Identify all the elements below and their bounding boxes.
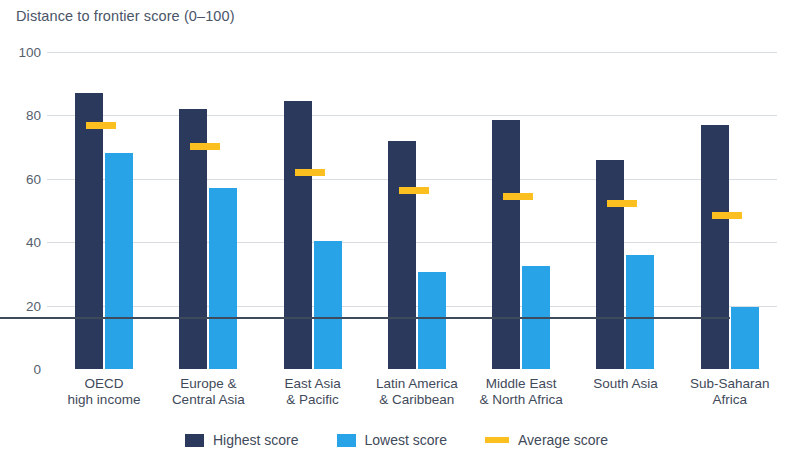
average-score-marker [503, 193, 533, 200]
x-axis-line [0, 317, 730, 319]
bar-highest-score [284, 101, 312, 369]
chart-title: Distance to frontier score (0–100) [16, 8, 235, 24]
bar-lowest-score [418, 272, 446, 369]
bar-highest-score [388, 141, 416, 369]
bar-lowest-score [626, 255, 654, 369]
legend-label: Lowest score [365, 432, 447, 448]
y-axis-tick-label: 80 [1, 108, 41, 123]
bar-group [75, 52, 133, 369]
bar-highest-score [492, 120, 520, 369]
x-axis-category-label: Europe &Central Asia [148, 376, 268, 408]
bar-highest-score [701, 125, 729, 369]
legend-label: Average score [518, 432, 608, 448]
y-axis-tick-label: 0 [1, 362, 41, 377]
x-axis-category-label-line: East Asia [253, 376, 373, 392]
average-score-marker [712, 212, 742, 219]
bar-lowest-score [209, 188, 237, 369]
x-axis-category-label: Sub-SaharanAfrica [670, 376, 790, 408]
bar-group [596, 52, 654, 369]
bar-lowest-score [731, 307, 759, 369]
legend-item[interactable]: Average score [485, 432, 608, 448]
x-axis-category-label: Middle East& North Africa [461, 376, 581, 408]
y-axis-tick-label: 40 [1, 235, 41, 250]
distance-to-frontier-chart: Distance to frontier score (0–100) 02040… [0, 0, 793, 461]
x-axis-category-label-line: & Caribbean [357, 392, 477, 408]
legend-color-swatch [337, 434, 356, 447]
plot-area [47, 52, 777, 369]
x-axis-category-label-line: OECD [44, 376, 164, 392]
x-axis-category-label-line: Africa [670, 392, 790, 408]
legend-label: Highest score [213, 432, 299, 448]
x-axis-category-label: South Asia [565, 376, 685, 392]
bar-group [701, 52, 759, 369]
legend-item[interactable]: Lowest score [337, 432, 447, 448]
average-score-marker [399, 187, 429, 194]
average-score-marker [86, 122, 116, 129]
y-axis-tick-label: 60 [1, 171, 41, 186]
y-axis-tick-label: 20 [1, 298, 41, 313]
bar-group [388, 52, 446, 369]
bar-group [179, 52, 237, 369]
average-score-marker [190, 143, 220, 150]
y-axis: 020406080100 [0, 52, 41, 369]
legend-line-swatch [485, 437, 509, 443]
average-score-marker [607, 200, 637, 207]
x-axis-category-label-line: & Pacific [253, 392, 373, 408]
x-axis-category-label-line: Latin America [357, 376, 477, 392]
bar-lowest-score [105, 153, 133, 369]
y-axis-tick-label: 100 [1, 45, 41, 60]
legend-color-swatch [185, 434, 204, 447]
x-axis-category-label-line: Central Asia [148, 392, 268, 408]
bar-highest-score [75, 93, 103, 369]
x-axis-category-label: Latin America& Caribbean [357, 376, 477, 408]
x-axis-category-label-line: & North Africa [461, 392, 581, 408]
x-axis-category-label: East Asia& Pacific [253, 376, 373, 408]
chart-legend: Highest scoreLowest scoreAverage score [0, 432, 793, 448]
x-axis-category-label-line: high income [44, 392, 164, 408]
bar-group [492, 52, 550, 369]
bar-highest-score [596, 160, 624, 369]
x-axis-category-label-line: South Asia [565, 376, 685, 392]
bar-group [284, 52, 342, 369]
x-axis-category-label-line: Middle East [461, 376, 581, 392]
average-score-marker [295, 169, 325, 176]
x-axis-category-label-line: Sub-Saharan [670, 376, 790, 392]
x-axis-category-label-line: Europe & [148, 376, 268, 392]
bar-lowest-score [314, 241, 342, 369]
legend-item[interactable]: Highest score [185, 432, 299, 448]
x-axis-category-label: OECDhigh income [44, 376, 164, 408]
